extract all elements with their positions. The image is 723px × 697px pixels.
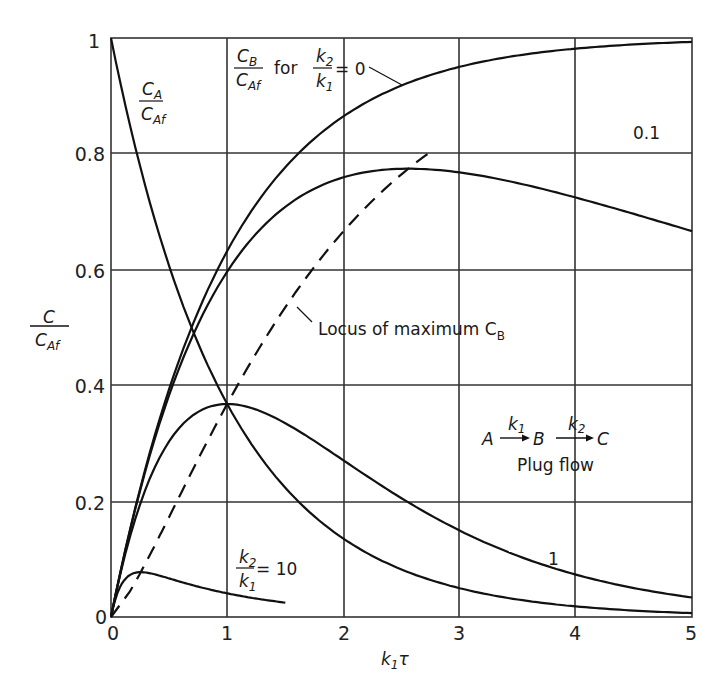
svg-text:3: 3 — [453, 622, 465, 644]
svg-text:k2: k2 — [568, 414, 586, 436]
svg-text:0.2: 0.2 — [75, 492, 105, 514]
y-axis-label: C CAf — [30, 307, 69, 353]
ca-label: CA CAf — [139, 79, 167, 127]
svg-text:CA: CA — [142, 79, 162, 102]
svg-text:0: 0 — [107, 622, 119, 644]
svg-text:A: A — [481, 429, 494, 449]
reaction-scheme: A k1 B k2 C Plug flow — [481, 414, 609, 475]
svg-text:= 0: = 0 — [335, 59, 365, 79]
svg-text:k1: k1 — [239, 571, 257, 594]
locus-leader-line — [297, 307, 312, 322]
svg-text:5: 5 — [685, 622, 697, 644]
label-k-0.1: 0.1 — [633, 123, 660, 143]
svg-text:B: B — [533, 429, 545, 449]
svg-text:k2: k2 — [239, 547, 257, 570]
cb0-label: CB CAf for k2 k1 = 0 — [234, 46, 365, 94]
chart: 1 0.8 0.6 0.4 0.2 0 0 1 2 3 4 5 C CAf k1… — [0, 0, 723, 697]
svg-text:k1τ: k1τ — [381, 649, 410, 672]
svg-text:0: 0 — [95, 606, 107, 628]
cb0-leader-line — [369, 67, 402, 85]
y-ticks: 1 0.8 0.6 0.4 0.2 0 — [75, 30, 107, 628]
svg-text:C: C — [597, 429, 609, 449]
svg-text:0.6: 0.6 — [75, 260, 105, 282]
svg-text:CAf: CAf — [141, 104, 167, 127]
svg-text:CAf: CAf — [35, 330, 61, 353]
svg-text:C: C — [43, 307, 55, 327]
x-axis-label: k1τ — [381, 649, 410, 672]
svg-text:1: 1 — [88, 30, 100, 52]
svg-text:k1: k1 — [316, 71, 334, 94]
svg-text:= 10: = 10 — [256, 559, 297, 579]
cb-k01-curve — [111, 169, 692, 617]
label-k-1: 1 — [548, 549, 559, 569]
svg-text:CAf: CAf — [236, 70, 262, 93]
svg-text:CB: CB — [237, 46, 257, 69]
k10-label: k2 k1 = 10 — [236, 547, 297, 594]
x-ticks: 0 1 2 3 4 5 — [107, 622, 697, 644]
svg-text:1: 1 — [221, 622, 233, 644]
svg-text:k2: k2 — [316, 46, 334, 69]
svg-text:2: 2 — [338, 622, 350, 644]
svg-text:0.8: 0.8 — [75, 143, 105, 165]
svg-text:for: for — [274, 58, 297, 78]
locus-label: Locus of maximum CB — [318, 319, 505, 343]
svg-text:4: 4 — [569, 622, 581, 644]
svg-text:Plug flow: Plug flow — [517, 455, 594, 475]
svg-text:k1: k1 — [508, 414, 526, 436]
svg-text:0.4: 0.4 — [75, 375, 105, 397]
